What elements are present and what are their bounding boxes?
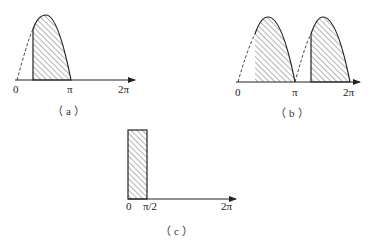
tick-a-pi: π xyxy=(67,83,73,95)
dashed-sine-a xyxy=(17,29,33,80)
shaded-area-b2 xyxy=(311,17,350,82)
shaded-area-b1 xyxy=(255,17,295,82)
tick-b-2pi: 2π xyxy=(343,86,354,98)
dashed-sine-b2 xyxy=(295,34,311,82)
caption-c: （c） xyxy=(160,222,196,238)
tick-a-0: 0 xyxy=(13,83,19,95)
tick-c-0: 0 xyxy=(126,200,132,212)
figure-c xyxy=(128,130,236,199)
shaded-pulse-c xyxy=(128,130,147,199)
caption-b: （b） xyxy=(275,104,312,120)
diagram-canvas xyxy=(0,0,370,250)
shaded-area-a xyxy=(33,15,71,80)
figure-b xyxy=(236,17,360,82)
tick-c-2pi: 2π xyxy=(221,200,232,212)
dashed-sine-b1 xyxy=(238,34,255,82)
figure-a xyxy=(15,15,135,80)
tick-b-0: 0 xyxy=(235,86,241,98)
tick-b-pi: π xyxy=(292,86,298,98)
tick-c-pi-half: π/2 xyxy=(143,200,157,212)
caption-a: （a） xyxy=(52,102,88,118)
tick-a-2pi: 2π xyxy=(118,83,129,95)
